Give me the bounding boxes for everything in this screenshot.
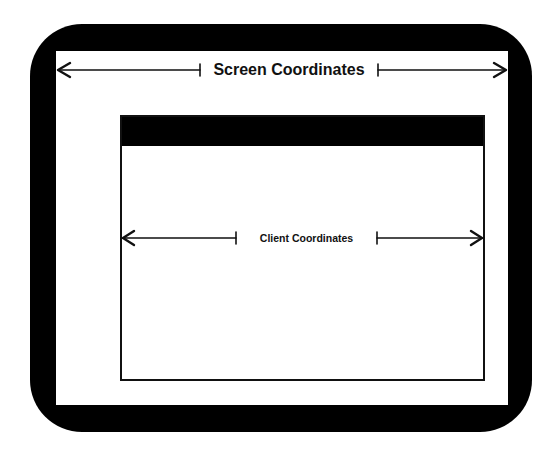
screen-coordinates-label: Screen Coordinates — [200, 60, 378, 80]
client-coordinates-label: Client Coordinates — [236, 231, 377, 245]
